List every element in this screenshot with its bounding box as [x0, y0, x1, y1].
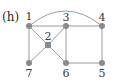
- node-6: [63, 60, 69, 66]
- node-label-6: 6: [63, 67, 70, 80]
- node-7: [26, 60, 32, 66]
- node-5: [99, 60, 105, 66]
- node-label-4: 4: [99, 11, 106, 24]
- node-label-3: 3: [63, 11, 70, 24]
- node-label-5: 5: [99, 67, 106, 80]
- node-label-2: 2: [45, 30, 52, 43]
- node-label-1: 1: [26, 10, 33, 23]
- node-1: [26, 23, 32, 29]
- graph-diagram: (h) 1 2 3 4 5 6 7: [0, 0, 113, 80]
- panel-label: (h): [2, 10, 19, 24]
- node-label-7: 7: [26, 67, 33, 80]
